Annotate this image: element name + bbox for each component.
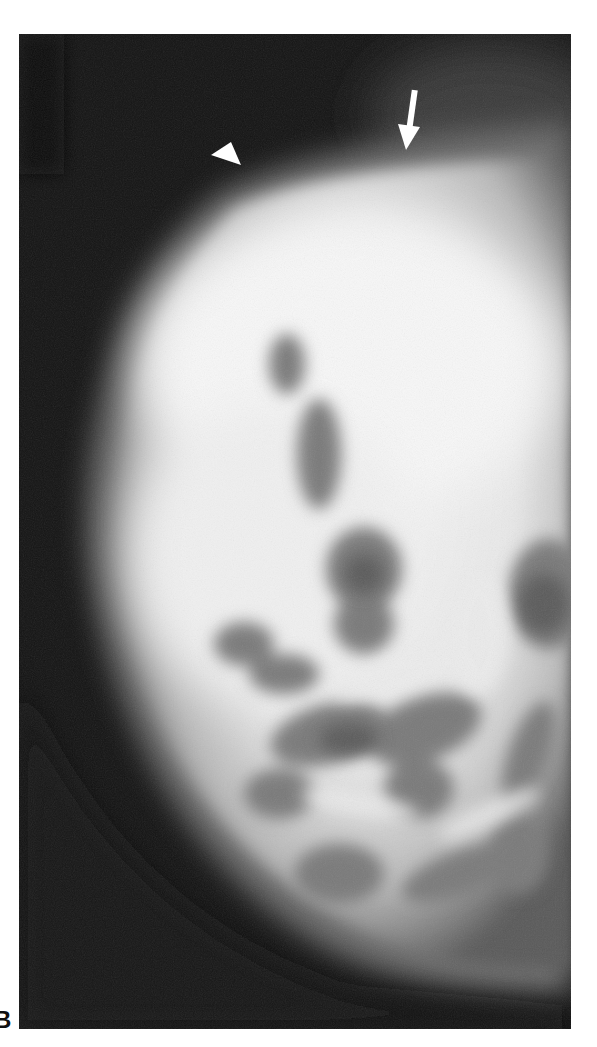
mammogram-graphic — [19, 34, 571, 1029]
mammogram-image — [19, 34, 571, 1029]
panel-label: B — [0, 1008, 11, 1032]
